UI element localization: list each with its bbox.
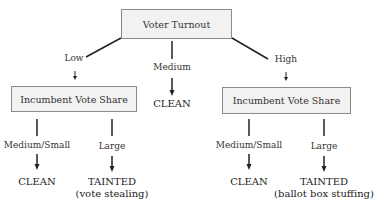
- node-low-incumbent-vote-share: Incumbent Vote Share: [11, 86, 137, 112]
- branch-label-medium: Medium: [153, 62, 191, 72]
- branch-label-low-medium-small: Medium/Small: [4, 140, 70, 150]
- branch-label-low-large: Large: [99, 141, 126, 151]
- root-node-label: Voter Turnout: [143, 19, 210, 30]
- branch-label-high: High: [275, 54, 297, 64]
- outcome-high-tainted-note: (ballot box stuffing): [274, 188, 374, 200]
- branch-label-high-medium-small: Medium/Small: [216, 140, 282, 150]
- node-high-label: Incumbent Vote Share: [233, 95, 341, 106]
- outcome-low-tainted: TAINTED: [88, 176, 136, 188]
- outcome-low-clean: CLEAN: [18, 176, 56, 188]
- root-node-voter-turnout: Voter Turnout: [121, 9, 232, 39]
- node-low-label: Incumbent Vote Share: [20, 94, 128, 105]
- node-high-incumbent-vote-share: Incumbent Vote Share: [222, 87, 351, 114]
- outcome-medium-clean: CLEAN: [153, 98, 191, 110]
- branch-label-high-large: Large: [311, 141, 338, 151]
- outcome-high-tainted: TAINTED: [300, 176, 348, 188]
- outcome-high-clean: CLEAN: [230, 176, 268, 188]
- branch-label-low: Low: [64, 53, 83, 63]
- outcome-low-tainted-note: (vote stealing): [76, 188, 149, 200]
